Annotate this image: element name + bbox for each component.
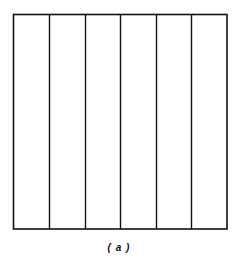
figure-caption: ( a )	[0, 242, 238, 253]
divided-square-diagram	[0, 0, 238, 262]
